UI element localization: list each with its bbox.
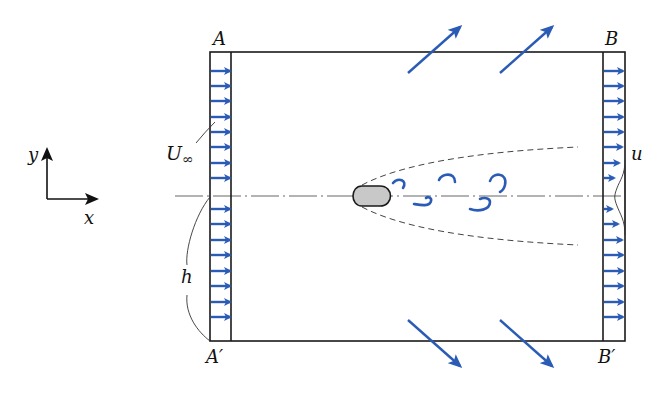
eddy-icon — [470, 198, 490, 210]
bottom-outflow-arrow-icon — [500, 320, 552, 366]
axis-label-y: y — [27, 144, 39, 165]
height-bracket-curve — [187, 197, 210, 265]
inlet-velocity-arrows — [211, 71, 230, 317]
coordinate-axes: y x — [27, 144, 96, 228]
corner-label-B-prime: B′ — [597, 346, 615, 367]
corner-label-A: A — [211, 28, 226, 49]
control-volume — [210, 52, 625, 341]
corner-label-B: B — [604, 28, 618, 49]
inflow-velocity-symbol: U — [166, 142, 183, 164]
outflow-velocity-label: u — [631, 143, 643, 164]
wake-boundary-lower — [362, 207, 578, 245]
eddy-icon — [490, 175, 505, 192]
eddy-icon — [439, 175, 455, 182]
bottom-outflow-arrow-icon — [408, 320, 460, 366]
eddy-icon — [393, 180, 404, 188]
inflow-velocity-subscript: ∞ — [182, 151, 194, 167]
top-outflow-arrow-icon — [408, 27, 460, 73]
bluff-body — [353, 186, 391, 206]
wake-boundary-upper — [362, 147, 578, 185]
axis-label-x: x — [84, 207, 94, 228]
inflow-velocity-label: U∞ — [166, 142, 194, 167]
eddy-icon — [414, 197, 431, 205]
wake-eddies — [393, 175, 505, 211]
control-volume-diagram: y x A B A′ B′ U∞ u h — [0, 0, 665, 411]
corner-label-A-prime: A′ — [204, 346, 223, 367]
height-label: h — [181, 266, 193, 287]
control-volume-outline — [210, 52, 625, 341]
height-bracket-curve-lower — [187, 295, 210, 341]
top-outflow-arrow-icon — [500, 27, 552, 73]
outlet-velocity-arrows — [604, 71, 623, 317]
